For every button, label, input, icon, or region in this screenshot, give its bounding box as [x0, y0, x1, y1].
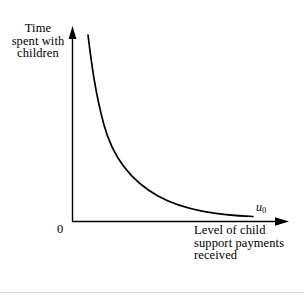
y-axis-label-line-1: Time [4, 22, 72, 35]
curve-label-subscript: 0 [262, 205, 266, 215]
indifference-curve-u0 [88, 35, 253, 217]
indifference-curve-figure: Time spent with children Level of child … [0, 0, 304, 298]
x-axis-label: Level of child support payments received [194, 224, 302, 262]
bottom-divider [0, 292, 304, 293]
x-axis-label-line-3: received [194, 249, 302, 262]
y-axis-label-line-3: children [4, 47, 72, 60]
y-axis-label: Time spent with children [4, 22, 72, 60]
x-axis-label-line-1: Level of child [194, 224, 302, 237]
curve-label-u0: u0 [256, 201, 266, 217]
origin-label: 0 [57, 223, 63, 236]
